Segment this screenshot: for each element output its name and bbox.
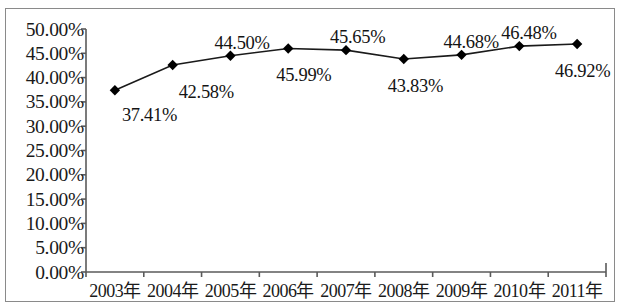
x-axis-tick-label: 2011年: [548, 282, 606, 300]
data-point-marker: [283, 43, 293, 53]
data-point-label: 43.83%: [388, 77, 443, 96]
data-point-label: 45.65%: [330, 28, 385, 47]
y-axis-tick-label: 0.00%: [0, 263, 84, 283]
data-point-label: 46.92%: [555, 62, 610, 81]
y-axis-tick-label: 40.00%: [0, 68, 84, 88]
x-axis-tick-label: 2006年: [259, 282, 317, 300]
x-axis-tick-label: 2005年: [202, 282, 260, 300]
chart-axes: [86, 29, 606, 272]
y-axis-tick-label: 5.00%: [0, 238, 84, 258]
chart-plot-area: [0, 0, 622, 306]
y-axis-tick-label: 10.00%: [0, 214, 84, 234]
x-axis-tick-label: 2007年: [317, 282, 375, 300]
x-axis-tick-label: 2003年: [86, 282, 144, 300]
data-point-label: 46.48%: [501, 24, 556, 43]
y-axis-tick-label: 20.00%: [0, 165, 84, 185]
x-axis-tick-label: 2008年: [375, 282, 433, 300]
y-axis-tick-label: 15.00%: [0, 190, 84, 210]
y-axis-tick-label: 50.00%: [0, 20, 84, 40]
x-axis-tick-label: 2009年: [433, 282, 491, 300]
data-point-marker: [399, 54, 409, 64]
y-axis-tick-label: 30.00%: [0, 117, 84, 137]
data-point-label: 45.99%: [276, 66, 331, 85]
data-point-label: 44.68%: [444, 33, 499, 52]
data-point-marker: [167, 60, 177, 70]
y-axis-tick-label: 35.00%: [0, 92, 84, 112]
x-axis-tick-label: 2010年: [490, 282, 548, 300]
data-point-label: 42.58%: [179, 83, 234, 102]
y-axis-tick-label: 25.00%: [0, 141, 84, 161]
y-axis-tick-label: 45.00%: [0, 44, 84, 64]
data-point-marker: [572, 39, 582, 49]
data-point-label: 37.41%: [122, 106, 177, 125]
x-axis-tick-label: 2004年: [144, 282, 202, 300]
line-chart: 50.00%45.00%40.00%35.00%30.00%25.00%20.0…: [0, 0, 622, 306]
data-point-marker: [110, 85, 120, 95]
data-point-label: 44.50%: [214, 34, 269, 53]
